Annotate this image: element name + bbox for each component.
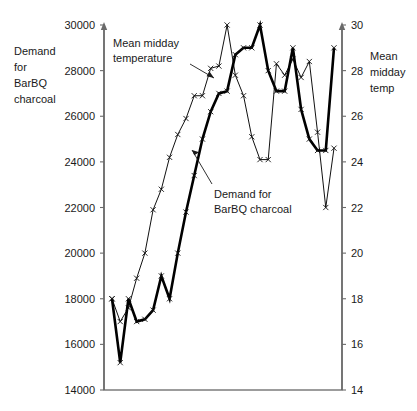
right-tick-label: 24 [351,156,363,168]
right-tick-label: 18 [351,293,363,305]
left-tick-label: 14000 [64,384,95,396]
left-tick-label: 26000 [64,110,95,122]
chart-container: 1400016000180002000022000240002600028000… [0,0,417,411]
left-tick-label: 20000 [64,247,95,259]
right-tick-label: 28 [351,65,363,77]
left-tick-label: 30000 [64,19,95,31]
dual-axis-line-chart: 1400016000180002000022000240002600028000… [0,0,417,411]
demand-annotation-line-1: Demand for [214,188,272,200]
left-axis-caption-line-2: for [14,61,27,73]
right-tick-label: 16 [351,338,363,350]
temp-annotation-line-2: temperature [113,52,172,64]
right-tick-label: 26 [351,110,363,122]
demand-annotation-line-2: BarBQ charcoal [214,203,292,215]
left-axis-caption-line-1: Demand [14,45,56,57]
right-axis-caption-line-2: midday [370,66,406,78]
left-tick-label: 28000 [64,65,95,77]
right-tick-label: 22 [351,202,363,214]
left-axis-caption-line-3: BarBQ [14,77,47,89]
right-axis-caption-line-1: Mean [370,50,398,62]
temp-annotation-line-1: Mean midday [113,37,180,49]
right-tick-label: 30 [351,19,363,31]
right-tick-label: 20 [351,247,363,259]
right-axis-caption-line-3: temp [370,82,394,94]
left-tick-label: 16000 [64,338,95,350]
left-tick-label: 24000 [64,156,95,168]
left-tick-label: 22000 [64,202,95,214]
right-tick-label: 14 [351,384,363,396]
left-axis-caption-line-4: charcoal [14,93,56,105]
left-tick-label: 18000 [64,293,95,305]
